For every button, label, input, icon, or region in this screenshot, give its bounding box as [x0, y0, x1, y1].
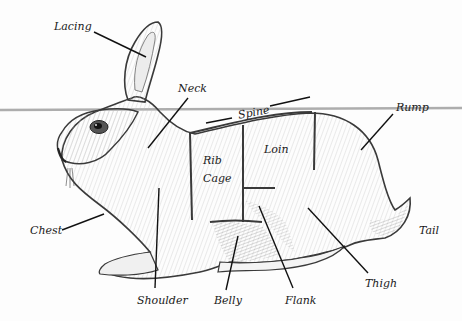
label-lacing: Lacing [54, 21, 92, 33]
label-flank: Flank [285, 295, 316, 307]
leader-rump [361, 114, 393, 150]
rabbit-diagram: Lacing Neck Spine Rump Rib Cage Loin Che… [0, 0, 462, 321]
label-neck: Neck [178, 83, 207, 95]
label-loin: Loin [264, 144, 289, 156]
label-rump: Rump [396, 102, 429, 114]
front-paw [99, 252, 158, 275]
label-belly: Belly [214, 295, 242, 307]
label-chest: Chest [30, 225, 62, 237]
label-shoulder: Shoulder [137, 295, 188, 307]
label-thigh: Thigh [365, 278, 397, 290]
leader-spine-right [270, 97, 310, 106]
label-rib-cage-line2: Cage [203, 173, 232, 185]
leader-spine-left [206, 118, 232, 123]
rabbit-illustration [0, 0, 462, 321]
fold-line [0, 108, 462, 110]
leader-chest [62, 214, 104, 230]
label-tail: Tail [419, 225, 439, 237]
label-rib-cage-line1: Rib [203, 155, 222, 167]
